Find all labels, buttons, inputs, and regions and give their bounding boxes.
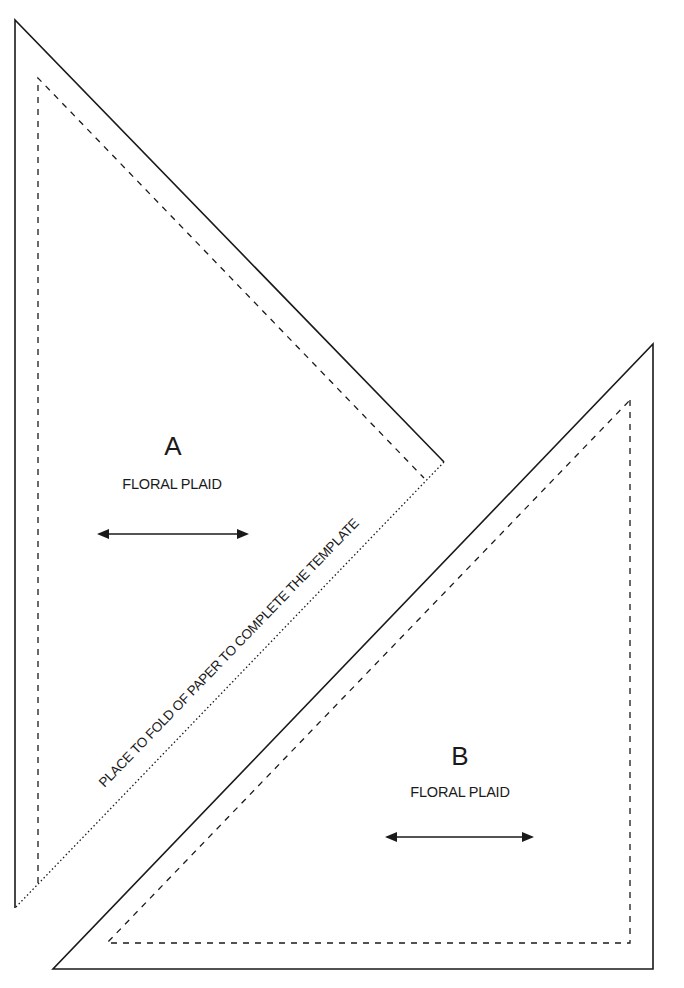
piece-b-cutting-line — [53, 344, 653, 969]
piece-b-fabric-label: FLORAL PLAID — [410, 784, 509, 800]
fold-instruction: PLACE TO FOLD OF PAPER TO COMPLETE THE T… — [96, 515, 362, 790]
piece-a-seam-line — [38, 78, 424, 883]
piece-b: B FLORAL PLAID — [53, 344, 653, 969]
piece-a-fabric-label: FLORAL PLAID — [122, 476, 221, 492]
piece-b-letter: B — [451, 741, 468, 771]
piece-a-fold-line — [15, 462, 444, 908]
piece-a: A FLORAL PLAID PLACE TO FOLD OF PAPER TO… — [15, 20, 444, 908]
piece-a-cutting-line — [15, 20, 444, 908]
quilt-template-sheet: A FLORAL PLAID PLACE TO FOLD OF PAPER TO… — [0, 0, 684, 988]
piece-a-letter: A — [164, 431, 182, 461]
